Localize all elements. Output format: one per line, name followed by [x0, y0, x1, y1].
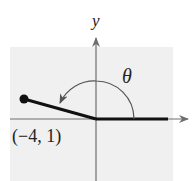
point-dot [20, 95, 29, 104]
angle-label: θ [122, 65, 132, 87]
angle-diagram: y θ (−4, 1) [0, 0, 192, 181]
y-axis-label: y [90, 11, 100, 30]
background-panel [10, 47, 173, 181]
point-label: (−4, 1) [12, 126, 61, 147]
